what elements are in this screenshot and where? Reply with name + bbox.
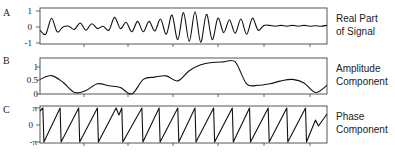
panel-letter-c: C (3, 104, 10, 115)
label-phase-line1: Phase (336, 111, 365, 122)
ytick-a-top: 1 (28, 6, 33, 16)
panel-b: B 1 0.5 0 Amplitude Component (3, 55, 388, 99)
label-real-part-line1: Real Part (336, 13, 378, 24)
label-amplitude-line2: Component (336, 76, 388, 87)
amplitude-curve (40, 60, 327, 94)
ytick-c-mid: 0 (29, 120, 34, 130)
panel-c: C π 0 -π Phase Component (3, 103, 388, 147)
panel-letter-b: B (3, 55, 10, 66)
label-amplitude-line1: Amplitude (336, 63, 381, 74)
ytick-a-mid: 0 (28, 22, 33, 32)
plot-frame-c (40, 106, 327, 143)
panel-letter-a: A (3, 7, 11, 18)
label-real-part-line2: of Signal (336, 26, 375, 37)
phase-curve (40, 108, 327, 142)
real-part-curve (40, 12, 327, 42)
ytick-a-bottom: -1 (25, 38, 33, 48)
figure: A 1 0 -1 Real Part of Signal B 1 0.5 0 A… (0, 0, 395, 154)
panel-a: A 1 0 -1 Real Part of Signal (3, 6, 378, 48)
label-phase-line2: Component (336, 124, 388, 135)
